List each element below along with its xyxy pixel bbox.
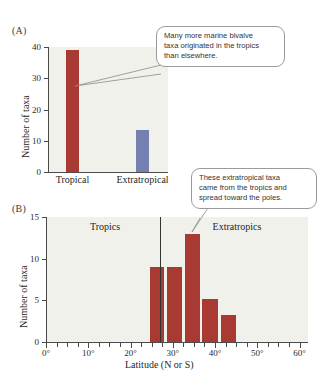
panel-b-region-label-tropics: Tropics (90, 221, 120, 232)
panel-b-ytick-10 (42, 259, 46, 260)
panel-b-bar-1 (150, 267, 165, 342)
panel-b-x-axis-title: Latitude (N or S) (125, 359, 194, 370)
panel-a-ytick-40 (44, 47, 48, 48)
panel-b-xtick-label-30: 30° (166, 348, 179, 358)
panel-a-bar-tropical (66, 50, 79, 172)
panel-b-xtick-minor (226, 343, 227, 347)
panel-b: (B) 0 5 10 15 Number of taxa (0, 190, 322, 381)
panel-a-callout-line3: than elsewhere. (164, 51, 278, 61)
panel-a-callout-line1: Many more marine bivalve (164, 31, 278, 41)
panel-b-xtick-minor (289, 343, 290, 347)
panel-b-xtick-minor (268, 343, 269, 347)
panel-a-label: (A) (12, 25, 26, 36)
panel-b-ytick-label-15: 15 (22, 212, 39, 222)
panel-b-bar-5 (221, 315, 236, 343)
panel-b-xtick-minor (236, 343, 237, 347)
panel-a-ytick-0 (44, 172, 48, 173)
panel-b-xtick-minor (120, 343, 121, 347)
panel-b-xtick-label-10: 10° (82, 348, 95, 358)
panel-a-callout: Many more marine bivalve taxa originated… (156, 26, 285, 67)
panel-b-xtick-minor (141, 343, 142, 347)
panel-a-ytick-label-40: 40 (24, 42, 41, 52)
panel-b-xtick-label-60: 60° (293, 348, 306, 358)
panel-a-ytick-10 (44, 141, 48, 142)
panel-b-callout: These extratropical taxa came from the t… (191, 168, 317, 209)
panel-b-xtick-minor (204, 343, 205, 347)
panel-b-xtick-minor (57, 343, 58, 347)
panel-b-bar-3 (185, 234, 200, 342)
panel-b-ytick-5 (42, 300, 46, 301)
panel-b-ytick-label-0: 0 (22, 337, 39, 347)
panel-a-y-axis (48, 47, 49, 173)
panel-a-x-axis (48, 172, 168, 173)
panel-b-xtick-minor (109, 343, 110, 347)
panel-b-y-axis (46, 217, 47, 343)
panel-b-xtick-minor (99, 343, 100, 347)
panel-a-ytick-label-0: 0 (24, 167, 41, 177)
panel-a-category-label-extratropical: Extratropical (116, 174, 168, 185)
panel-a-ytick-30 (44, 78, 48, 79)
panel-b-bar-2 (167, 267, 182, 342)
panel-a: (A) 0 10 20 30 40 Number of taxa Tropica… (0, 0, 322, 190)
panel-a-category-label-tropical: Tropical (56, 174, 90, 185)
panel-b-xtick-minor (162, 343, 163, 347)
panel-b-xtick-minor (183, 343, 184, 347)
panel-b-callout-line3: spread toward the poles. (199, 193, 310, 203)
panel-a-y-axis-title: Number of taxa (20, 95, 31, 158)
panel-b-y-axis-title: Number of taxa (18, 265, 29, 328)
panel-b-ytick-15 (42, 217, 46, 218)
panel-b-xtick-minor (67, 343, 68, 347)
panel-b-callout-line2: came from the tropics and (199, 183, 310, 193)
panel-b-xtick-minor (152, 343, 153, 347)
panel-b-ytick-label-10: 10 (22, 254, 39, 264)
panel-b-xtick-minor (194, 343, 195, 347)
panel-b-xtick-minor (247, 343, 248, 347)
figure-root: (A) 0 10 20 30 40 Number of taxa Tropica… (0, 0, 322, 381)
panel-b-xtick-label-0: 0° (42, 348, 50, 358)
panel-a-ytick-20 (44, 110, 48, 111)
panel-b-xtick-label-50: 50° (251, 348, 264, 358)
panel-b-region-label-extratropics: Extratropics (213, 221, 262, 232)
panel-b-xtick-label-40: 40° (209, 348, 222, 358)
panel-b-xtick-minor (78, 343, 79, 347)
panel-b-xtick-label-20: 20° (124, 348, 137, 358)
panel-a-ytick-label-30: 30 (24, 73, 41, 83)
panel-b-xtick-minor (278, 343, 279, 347)
panel-a-bar-extratropical (136, 130, 149, 172)
panel-b-tropics-divider (160, 217, 161, 342)
panel-a-callout-line2: taxa originated in the tropics (164, 41, 278, 51)
panel-b-callout-line1: These extratropical taxa (199, 173, 310, 183)
panel-b-bar-4 (202, 299, 217, 342)
